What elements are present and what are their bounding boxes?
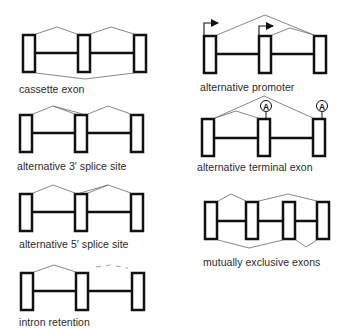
intron-retention-diagram	[21, 265, 144, 310]
alt-terminal-exon-diagram: A A	[202, 96, 328, 156]
exon-3	[134, 35, 146, 72]
alt-promoter-diagram	[204, 15, 326, 73]
label-alt-5-splice-site: alternative 5′ splice site	[19, 238, 129, 250]
alt-5-splice-diagram	[20, 185, 143, 231]
label-intron-retention: intron retention	[19, 316, 90, 328]
promoter-arrow-1-icon	[204, 23, 218, 35]
label-alt-promoter: alternative promoter	[200, 81, 294, 93]
exon-1	[23, 35, 35, 72]
label-mutually-exclusive-exons: mutually exclusive exons	[203, 256, 320, 268]
exon-2	[78, 35, 90, 72]
alt-3-splice-diagram	[20, 106, 143, 152]
svg-text:A: A	[319, 102, 325, 112]
cassette-exon-diagram	[23, 27, 146, 79]
label-alt-terminal-exon: alternative terminal exon	[197, 161, 313, 173]
mutually-exclusive-diagram	[205, 194, 329, 248]
label-alt-3-splice-site: alternative 3′ splice site	[17, 160, 127, 172]
svg-text:A: A	[263, 102, 269, 112]
label-cassette-exon: cassette exon	[19, 83, 84, 95]
promoter-arrow-2-icon	[259, 26, 273, 35]
